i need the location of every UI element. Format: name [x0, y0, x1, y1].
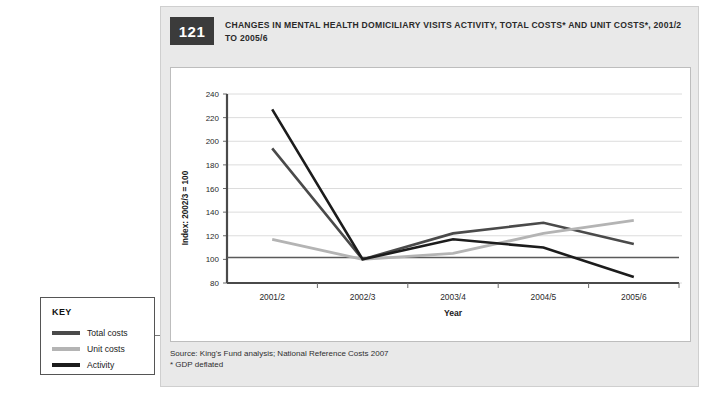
x-tick-label: 2002/3	[350, 292, 376, 302]
legend-swatch-activity	[52, 363, 80, 366]
x-axis-title: Year	[444, 308, 463, 318]
x-tick-label: 2004/5	[531, 292, 557, 302]
y-tick-label: 180	[206, 161, 220, 170]
legend-swatch-total-costs	[52, 331, 80, 334]
figure-title: CHANGES IN MENTAL HEALTH DOMICILIARY VIS…	[225, 19, 687, 45]
legend-swatch-unit-costs	[52, 347, 80, 350]
legend-item-unit-costs: Unit costs	[52, 344, 125, 354]
legend-item-activity: Activity	[52, 360, 114, 370]
legend-label-activity: Activity	[87, 360, 114, 370]
y-tick-label: 160	[206, 185, 220, 194]
legend-label-unit-costs: Unit costs	[87, 344, 125, 354]
source-line-2: * GDP deflated	[170, 359, 691, 370]
x-tick-label: 2001/2	[259, 292, 285, 302]
figure-number-badge: 121	[170, 17, 214, 45]
y-tick-labels: 80100120140160180200220240	[206, 90, 220, 288]
y-tick-label: 140	[206, 208, 220, 217]
figure-source-block: Source: King's Fund analysis; National R…	[170, 348, 691, 370]
y-gridlines	[227, 94, 682, 283]
legend-item-total-costs: Total costs	[52, 328, 128, 338]
x-tick-labels: 2001/22002/32003/42004/52005/6	[259, 292, 647, 302]
source-line-1: Source: King's Fund analysis; National R…	[170, 348, 691, 359]
figure-panel: 121 CHANGES IN MENTAL HEALTH DOMICILIARY…	[160, 6, 699, 387]
x-tick-label: 2005/6	[621, 292, 647, 302]
y-tick-label: 240	[206, 90, 220, 99]
chart-legend-key-box: KEY Total costs Unit costs Activity	[40, 297, 155, 375]
y-axis-title: Index: 2002/3 = 100	[181, 170, 190, 245]
y-tick-label: 120	[206, 232, 220, 241]
legend-title: KEY	[52, 307, 72, 317]
line-chart: Index: 2002/3 = 100 80100120140160180200…	[171, 68, 690, 341]
y-tick-label: 100	[206, 255, 220, 264]
legend-label-total-costs: Total costs	[87, 328, 128, 338]
plot-card: Index: 2002/3 = 100 80100120140160180200…	[170, 67, 691, 342]
x-tick-label: 2003/4	[440, 292, 466, 302]
y-tick-label: 80	[210, 279, 219, 288]
figure-header: 121 CHANGES IN MENTAL HEALTH DOMICILIARY…	[161, 7, 700, 65]
y-tick-label: 200	[206, 137, 220, 146]
y-tick-label: 220	[206, 114, 220, 123]
